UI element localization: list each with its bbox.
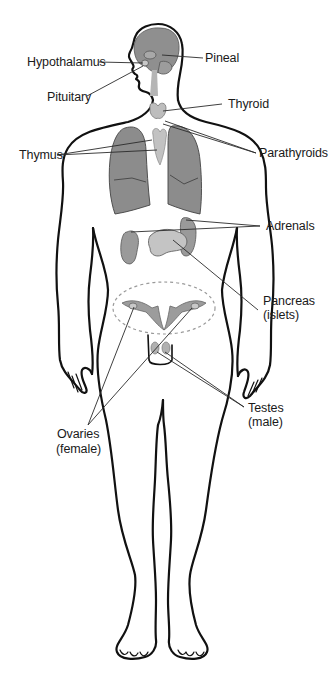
body-outline — [57, 24, 274, 659]
label-pituitary: Pituitary — [47, 90, 91, 104]
label-thyroid: Thyroid — [228, 97, 269, 111]
endocrine-diagram: Hypothalamus Pineal Pituitary Thyroid Th… — [0, 0, 335, 695]
label-hypothalamus: Hypothalamus — [27, 55, 106, 69]
ovary-region-dashed-circle — [113, 282, 215, 334]
label-adrenals: Adrenals — [266, 219, 315, 233]
label-pancreas-islets: (islets) — [263, 308, 299, 322]
thymus-gland — [153, 128, 167, 165]
label-pancreas: Pancreas — [263, 294, 315, 308]
label-pineal: Pineal — [205, 51, 239, 65]
label-ovaries-female: (female) — [56, 442, 101, 456]
uterus — [122, 301, 206, 330]
label-testes-male: (male) — [248, 415, 283, 429]
label-parathyroids: Parathyroids — [259, 146, 328, 160]
label-testes: Testes — [248, 401, 284, 415]
brain — [134, 28, 179, 96]
body-figure-illustration — [0, 0, 335, 695]
label-thymus: Thymus — [19, 148, 63, 162]
label-ovaries: Ovaries — [57, 427, 99, 441]
abdominal-organs — [121, 218, 196, 264]
